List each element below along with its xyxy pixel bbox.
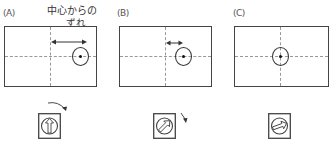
panel-label-a: (A) bbox=[3, 8, 15, 18]
adjustment-knob-c[interactable] bbox=[268, 113, 291, 139]
rotate-clockwise-arrow-icon bbox=[46, 100, 68, 112]
adjustment-knob-a[interactable] bbox=[38, 113, 61, 139]
target-circle bbox=[72, 47, 89, 66]
offset-annotation-line1: 中心からの bbox=[47, 5, 97, 16]
offset-arrow-icon bbox=[166, 40, 183, 46]
target-circle bbox=[272, 47, 289, 66]
center-guide-horizontal bbox=[120, 56, 211, 57]
target-circle bbox=[175, 47, 192, 66]
viewfinder-frame-a bbox=[4, 26, 97, 87]
panel-label-b: (B) bbox=[117, 8, 129, 18]
target-dot bbox=[79, 55, 82, 58]
viewfinder-frame-c bbox=[234, 26, 329, 87]
adjustment-knob-b[interactable] bbox=[153, 113, 176, 139]
rotate-clockwise-arrow-icon bbox=[180, 112, 188, 124]
target-dot bbox=[279, 55, 282, 58]
target-dot bbox=[182, 55, 185, 58]
offset-arrow-icon bbox=[51, 39, 87, 45]
viewfinder-frame-b bbox=[119, 26, 212, 87]
panel-label-c: (C) bbox=[233, 8, 245, 18]
